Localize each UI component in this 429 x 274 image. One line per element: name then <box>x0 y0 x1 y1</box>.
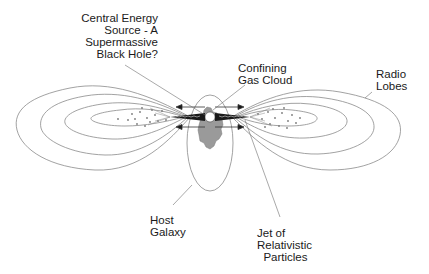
right-lobe-contour-1 <box>238 109 317 126</box>
leader-lines <box>125 65 372 217</box>
radio-galaxy-diagram <box>0 0 429 274</box>
black-hole-center <box>205 112 215 122</box>
label-jet-relativistic-particles: Jet of Relativistic Particles <box>257 227 312 263</box>
label-confining-gas-cloud: Confining Gas Cloud <box>238 62 292 86</box>
label-host-galaxy: Host Galaxy <box>150 214 186 238</box>
left-lobe-contour-3 <box>41 94 188 155</box>
left-radio-lobes <box>16 86 190 170</box>
label-radio-lobes: Radio Lobes <box>376 68 407 92</box>
right-lobe-contour-2 <box>236 103 347 138</box>
label-energy-source: Central Energy Source - A Supermassive B… <box>68 12 158 60</box>
leader-host-galaxy <box>173 185 192 205</box>
right-lobe-contour-4 <box>232 90 401 170</box>
leader-energy-source <box>125 65 205 115</box>
right-jet <box>215 113 250 121</box>
right-radio-lobes <box>232 90 401 170</box>
leader-radio-lobes <box>365 92 372 98</box>
